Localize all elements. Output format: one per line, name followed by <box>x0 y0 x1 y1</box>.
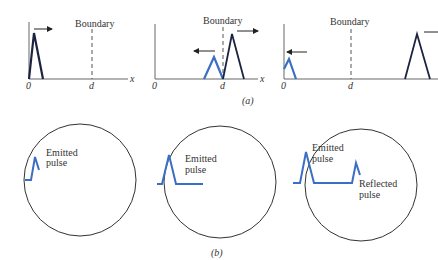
emitted-label-line1: Emitted <box>312 142 344 153</box>
reflected-pulse <box>284 59 296 79</box>
caption-a: (a) <box>242 95 254 107</box>
origin-label: 0 <box>152 80 157 91</box>
boundary-label: Boundary <box>203 15 242 26</box>
circle-boundary <box>164 126 276 238</box>
circle-boundary <box>24 124 136 236</box>
reflected-label-line1: Reflected <box>359 178 397 189</box>
emitted-label-line2: pulse <box>46 157 68 168</box>
d-label: d <box>220 80 226 91</box>
panel-a3: Boundary 0 d <box>281 16 438 91</box>
boundary-label: Boundary <box>330 16 369 27</box>
panel-a1: Boundary 0 d x <box>26 18 135 91</box>
panel-a2: Boundary 0 d x <box>152 15 265 91</box>
panel-b3: Emitted pulse Reflected pulse <box>293 129 417 241</box>
d-label: d <box>89 80 95 91</box>
emitted-label-line1: Emitted <box>185 153 217 164</box>
panel-b1: Emitted pulse <box>24 124 136 236</box>
emitted-label-line2: pulse <box>185 164 207 175</box>
x-axis-label: x <box>259 73 265 84</box>
reflected-pulse <box>204 57 223 79</box>
d-label: d <box>348 80 354 91</box>
reflected-label-line2: pulse <box>359 189 381 200</box>
panel-b2: Emitted pulse <box>157 126 276 238</box>
x-axis-label: x <box>129 73 135 84</box>
emitted-label-line2: pulse <box>312 153 334 164</box>
transmitted-pulse <box>223 34 244 79</box>
incident-pulse <box>29 33 43 79</box>
origin-label: 0 <box>281 80 286 91</box>
caption-b: (b) <box>211 247 223 259</box>
origin-label: 0 <box>26 80 31 91</box>
transmitted-pulse <box>405 34 430 79</box>
pulse-reflection-figure: Boundary 0 d x Boundary 0 d x Boundary 0… <box>0 0 438 260</box>
boundary-label: Boundary <box>75 18 114 29</box>
